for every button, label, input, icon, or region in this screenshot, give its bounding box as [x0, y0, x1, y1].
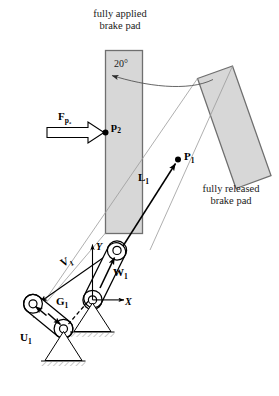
label-vector-W1: W1 [113, 266, 128, 281]
point-p2-marker [103, 130, 109, 136]
point-P1-marker [175, 157, 181, 163]
G1-symbol: G [56, 295, 65, 307]
force-symbol: F [58, 110, 65, 122]
label-vector-U1: U1 [20, 331, 32, 346]
fully-released-brake-pad-shape [198, 66, 272, 189]
angle-label-20deg: 20° [114, 58, 128, 69]
W1-subscript: 1 [124, 272, 128, 281]
G1-subscript: 1 [65, 301, 69, 310]
caption-fully-released-brake-pad: fully released brake pad [183, 183, 279, 208]
L1-subscript: 1 [145, 177, 149, 186]
label-axis-Y: Y [96, 241, 102, 252]
P1-subscript: 1 [191, 156, 195, 165]
label-vector-L1: L1 [138, 171, 149, 186]
force-arrow-Fp2 [47, 122, 104, 143]
label-force-Fp2: Fp₂ [58, 110, 71, 125]
fully-applied-brake-pad-shape [106, 51, 143, 234]
force-subscript: p₂ [65, 116, 71, 125]
ground-support-right [70, 303, 115, 337]
U1-subscript: 1 [28, 337, 32, 346]
p2-subscript: 2 [117, 126, 121, 135]
U1-symbol: U [20, 331, 28, 343]
label-vector-G1: G1 [56, 295, 68, 310]
caption-fully-applied-brake-pad: fully applied brake pad [60, 8, 180, 33]
label-point-p2: p2 [111, 120, 121, 135]
brake-pad-linkage-figure: fully applied brake pad fully released b… [0, 0, 279, 396]
label-point-P1: P1 [184, 150, 194, 165]
P1-symbol: P [184, 150, 191, 162]
label-axis-X: X [125, 296, 132, 307]
W1-symbol: W [113, 266, 124, 278]
